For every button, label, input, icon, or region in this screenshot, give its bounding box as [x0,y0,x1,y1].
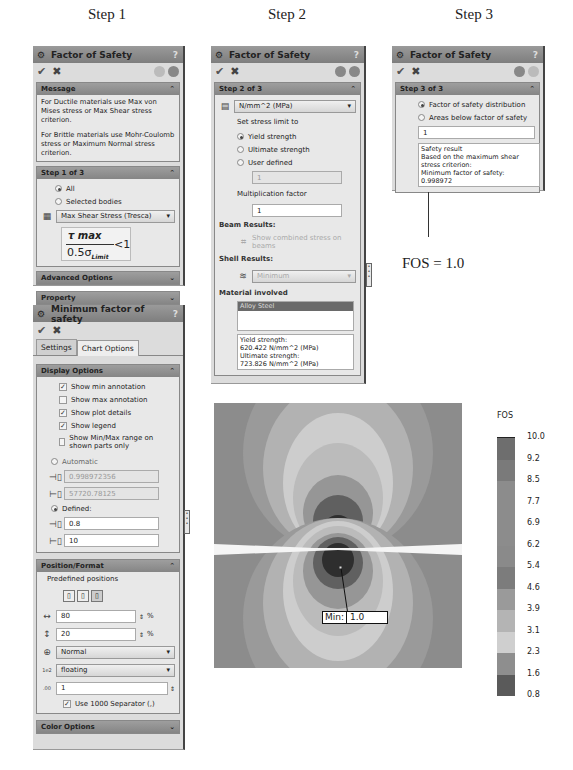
step3-panel: ⚙ Factor of Safety ? ✔ ✖ Step 3 of 3⌃ Fa… [392,46,545,191]
message-section: Message⌃ For Ductile materials use Max v… [36,82,180,162]
collapse-icon[interactable]: ⌃ [169,85,175,93]
next-arrow-icon[interactable] [168,66,179,77]
expand-icon[interactable]: ⌄ [169,723,175,731]
tab-settings[interactable]: Settings [36,339,77,355]
color-options-section[interactable]: Color Options⌄ [36,720,180,734]
back-arrow-icon[interactable] [335,66,346,77]
defined-max-field[interactable]: 10 [64,534,159,547]
step-2-section: Step 2 of 3⌃ ▤N/mm^2 (MPa)▾ Set stress l… [214,82,361,376]
radio-button[interactable] [237,146,244,153]
units-select[interactable]: N/mm^2 (MPa)▾ [234,100,356,113]
radio-ultimate-strength[interactable]: Ultimate strength [219,143,356,156]
radio-button[interactable] [51,505,58,512]
position-right-icon[interactable]: ▯ [91,590,103,602]
panel-resize-grip[interactable]: ••• [366,263,372,287]
back-arrow-icon[interactable] [154,66,165,77]
ok-check-icon[interactable]: ✔ [37,65,46,78]
radio-button[interactable] [237,133,244,140]
ok-check-icon[interactable]: ✔ [37,324,46,337]
radio-user-defined[interactable]: User defined [219,156,356,169]
radio-automatic[interactable]: Automatic [41,455,175,468]
checkbox[interactable]: ✓ [59,422,67,430]
collapse-icon[interactable]: ⌃ [169,169,175,177]
legend-band [497,524,515,546]
tab-chart-options[interactable]: Chart Options [77,340,139,356]
radio-fos-distribution[interactable]: Factor of safety distribution [400,98,535,111]
dropdown-arrow-icon: ▾ [166,666,170,674]
mult-factor-field[interactable]: 1 [252,204,342,217]
radio-areas-below[interactable]: Areas below factor of safety [400,111,535,124]
checkbox[interactable]: ✓ [63,700,71,708]
checkbox[interactable]: ✓ [59,409,67,417]
position-left-icon[interactable]: ▯ [63,590,75,602]
check-show-legend[interactable]: ✓Show legend [59,419,175,432]
number-format-icon: ⊕ [41,646,53,658]
auto-max-field[interactable]: 57720.78125 [64,487,159,500]
radio-selected-bodies[interactable]: Selected bodies [41,195,175,208]
check-use-separator[interactable]: ✓Use 1000 Separator (,) [41,697,175,710]
cancel-x-icon[interactable]: ✖ [411,65,420,78]
material-item-selected[interactable]: Alloy Steel [238,302,353,311]
help-icon[interactable]: ? [173,50,178,60]
check-show-min-annotation[interactable]: ✓Show min annotation [59,380,175,393]
cancel-x-icon[interactable]: ✖ [52,65,61,78]
criterion-select[interactable]: Max Shear Stress (Tresca)▾ [56,210,175,223]
user-defined-field[interactable]: 1 [252,171,342,184]
help-icon[interactable]: ? [173,309,178,319]
dropdown-arrow-icon: ▾ [347,272,351,280]
radio-button[interactable] [418,114,425,121]
shell-results-select[interactable]: Minimum▾ [252,270,356,283]
check-show-max-annotation[interactable]: Show max annotation [59,393,175,406]
x-position-field[interactable]: 80 [56,610,136,623]
collapse-icon[interactable]: ⌃ [169,562,175,570]
ok-check-icon[interactable]: ✔ [396,65,405,78]
collapse-icon[interactable]: ⌃ [529,85,535,93]
cancel-x-icon[interactable]: ✖ [230,65,239,78]
next-arrow-icon[interactable] [528,66,539,77]
result-line: Safety result [421,145,537,153]
number-format-select[interactable]: Normal▾ [56,646,175,659]
y-position-field[interactable]: 20 [56,628,136,641]
back-arrow-icon[interactable] [514,66,525,77]
radio-label: Ultimate strength [248,146,310,154]
auto-min-field[interactable]: 0.998972356 [64,470,159,483]
info-line: 723.826 N/mm^2 (MPa) [240,360,351,368]
spin-arrows-icon[interactable]: ⇕ [139,613,144,620]
expand-icon[interactable]: ⌄ [169,294,175,302]
next-arrow-icon[interactable] [349,66,360,77]
radio-button[interactable] [237,159,244,166]
check-show-plot-details[interactable]: ✓Show plot details [59,406,175,419]
check-show-range-shown-parts[interactable]: Show Min/Max range on shown parts only [59,432,175,452]
panel-resize-grip[interactable]: ••• [184,510,190,534]
legend-tick-label: 6.9 [527,518,540,527]
float-format-select[interactable]: floating▾ [56,664,175,677]
checkbox[interactable] [59,438,65,446]
radio-button[interactable] [51,458,58,465]
radio-yield-strength[interactable]: Yield strength [219,130,356,143]
ok-check-icon[interactable]: ✔ [215,65,224,78]
decimal-places-field[interactable]: 1 [56,682,168,695]
fos-threshold-field[interactable]: 1 [418,126,535,139]
radio-button[interactable] [55,185,62,192]
radio-all[interactable]: All [41,182,175,195]
radio-button[interactable] [55,198,62,205]
legend-band [497,589,515,611]
expand-icon[interactable]: ⌄ [169,274,175,282]
checkbox[interactable] [59,396,67,404]
spin-arrows-icon[interactable]: ⇕ [170,685,175,692]
material-list[interactable]: Alloy Steel [237,301,354,331]
collapse-icon[interactable]: ⌃ [169,367,175,375]
checkbox[interactable]: ✓ [59,383,67,391]
collapse-icon[interactable]: ⌃ [350,85,356,93]
legend-band [497,481,515,503]
position-center-icon[interactable]: ▯ [77,590,89,602]
select-value: Normal [61,648,86,656]
radio-defined[interactable]: Defined: [41,502,175,515]
cancel-x-icon[interactable]: ✖ [52,324,61,337]
advanced-options-section[interactable]: Advanced Options⌄ [36,271,180,285]
help-icon[interactable]: ? [533,50,538,60]
help-icon[interactable]: ? [354,50,359,60]
defined-min-field[interactable]: 0.8 [64,517,159,530]
spin-arrows-icon[interactable]: ⇕ [139,631,144,638]
radio-button[interactable] [418,101,425,108]
